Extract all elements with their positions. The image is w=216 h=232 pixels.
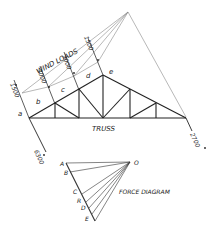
force-point-C: C: [73, 188, 78, 195]
force-diagram-label: FORCE DIAGRAM: [119, 188, 171, 195]
force-point-R: R: [77, 197, 81, 204]
reaction-left: 6300: [33, 148, 46, 165]
space-label-c: c: [61, 86, 65, 94]
truss: [29, 75, 186, 118]
space-label-b: b: [36, 98, 41, 106]
force-point-E: E: [85, 215, 89, 222]
force-pole-O: O: [134, 159, 139, 166]
reaction-right: 2700: [189, 131, 202, 148]
diagram-canvas: WIND LOADS 1500 3000 3000 1500 a b c d e…: [0, 0, 216, 232]
truss-label: TRUSS: [92, 125, 115, 133]
wind-load-4: 1500: [83, 35, 95, 52]
space-label-e: e: [109, 68, 113, 76]
space-label-d: d: [86, 72, 91, 80]
reaction-lines: [29, 118, 192, 152]
force-point-B: B: [64, 169, 68, 176]
force-point-A: A: [59, 160, 64, 167]
space-label-a: a: [18, 110, 22, 118]
wind-load-1: 1500: [9, 82, 21, 99]
force-point-D: D: [81, 204, 86, 211]
